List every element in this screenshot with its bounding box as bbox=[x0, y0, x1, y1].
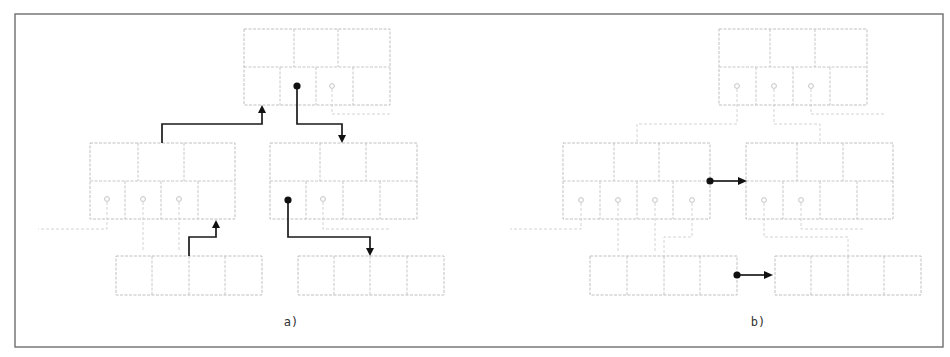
leaf-node bbox=[298, 256, 444, 295]
panel-b-caption: b) bbox=[751, 315, 765, 329]
pointer-dot-icon bbox=[762, 198, 767, 203]
highlighted-pointer-line bbox=[162, 111, 262, 143]
panel-b-nodes bbox=[563, 29, 921, 295]
internal-node bbox=[244, 29, 390, 105]
leaf-node bbox=[775, 256, 921, 295]
arrowhead-down-icon bbox=[366, 248, 374, 256]
diagram-canvas: a) b) bbox=[0, 0, 950, 357]
pointer-dot-icon bbox=[141, 197, 146, 202]
pointer-dot-icon bbox=[616, 198, 621, 203]
pointer-dot-icon bbox=[653, 198, 658, 203]
arrowhead-right-icon bbox=[764, 271, 773, 279]
arrowhead-down-icon bbox=[338, 135, 346, 143]
panel-a-caption: a) bbox=[284, 315, 298, 329]
internal-node bbox=[270, 143, 417, 219]
arrowhead-up-icon bbox=[212, 220, 220, 228]
pointer-dot-icon bbox=[690, 198, 695, 203]
internal-node bbox=[563, 143, 710, 219]
highlighted-pointer-line bbox=[189, 226, 216, 256]
arrowhead-up-icon bbox=[258, 105, 266, 113]
node-outline bbox=[298, 256, 444, 295]
leaf-node bbox=[116, 256, 262, 295]
leaf-node bbox=[590, 256, 737, 295]
pointer-dot-icon bbox=[177, 197, 182, 202]
pointer-dot-icon bbox=[799, 198, 804, 203]
internal-node bbox=[90, 143, 235, 219]
btree-diagram-figure: a) b) bbox=[0, 0, 950, 357]
pointer-dot-icon bbox=[809, 84, 814, 89]
internal-node bbox=[719, 29, 867, 105]
pointer-origin-dot-icon bbox=[706, 177, 713, 184]
internal-node bbox=[746, 143, 893, 219]
panel-a-nodes bbox=[90, 29, 444, 295]
pointer-dot-icon bbox=[105, 197, 110, 202]
pointer-dot-icon bbox=[579, 198, 584, 203]
node-outline bbox=[590, 256, 737, 295]
pointer-origin-dot-icon bbox=[293, 82, 300, 89]
panel-a-parent-pointers: a) bbox=[38, 29, 444, 329]
pointer-origin-dot-icon bbox=[733, 271, 740, 278]
pointer-dot-icon bbox=[321, 197, 326, 202]
panel-b-sibling-pointers: b) bbox=[510, 29, 921, 329]
pointer-dot-icon bbox=[735, 84, 740, 89]
pointer-dot-icon bbox=[772, 84, 777, 89]
pointer-dot-icon bbox=[330, 84, 335, 89]
pointer-origin-dot-icon bbox=[284, 196, 291, 203]
